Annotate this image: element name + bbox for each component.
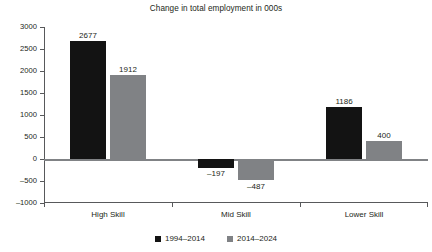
- y-axis-tick-label: 2000: [0, 67, 37, 75]
- y-axis-tick-label: 1000: [0, 111, 37, 119]
- y-axis-tick-label: 3000: [0, 23, 37, 31]
- y-axis-tick: [40, 49, 44, 50]
- y-axis-tick: [40, 181, 44, 182]
- chart-title: Change in total employment in 000s: [0, 4, 432, 13]
- y-axis-tick: [40, 27, 44, 28]
- y-axis-tick: [40, 115, 44, 116]
- legend-label: 2014–2024: [237, 234, 277, 243]
- chart-container: Change in total employment in 000s 30002…: [0, 0, 432, 252]
- bar: [198, 159, 234, 168]
- zero-baseline: [44, 159, 428, 161]
- y-axis-tick-label: 500: [0, 133, 37, 141]
- bar: [70, 41, 106, 159]
- x-axis-tick: [172, 202, 173, 207]
- x-axis-line: [44, 202, 428, 203]
- legend-item[interactable]: 2014–2024: [227, 234, 277, 243]
- category-label: Mid Skill: [172, 210, 300, 219]
- y-axis-tick-label: 0: [0, 155, 37, 163]
- bar-value-label: 400: [356, 131, 412, 140]
- y-axis-tick: [40, 93, 44, 94]
- chart-legend: 1994–20142014–2024: [0, 234, 432, 243]
- y-axis-line: [44, 27, 45, 203]
- y-axis-tick-label: –1000: [0, 199, 37, 207]
- y-axis-tick-label: 1500: [0, 89, 37, 97]
- legend-label: 1994–2014: [165, 234, 205, 243]
- bar: [238, 159, 274, 180]
- category-label: High Skill: [44, 210, 172, 219]
- legend-item[interactable]: 1994–2014: [155, 234, 205, 243]
- y-axis-tick: [40, 159, 44, 160]
- category-label: Lower Skill: [300, 210, 428, 219]
- y-axis-tick-label: 2500: [0, 45, 37, 53]
- bar-value-label: –487: [228, 182, 284, 191]
- bar-value-label: 1912: [100, 65, 156, 74]
- y-axis-tick: [40, 71, 44, 72]
- x-axis-tick: [300, 202, 301, 207]
- y-axis-tick-label: –500: [0, 177, 37, 185]
- y-axis-tick: [40, 137, 44, 138]
- x-axis-tick: [44, 202, 45, 207]
- legend-swatch-icon: [155, 236, 161, 242]
- x-axis-tick: [427, 202, 428, 207]
- legend-swatch-icon: [227, 236, 233, 242]
- bar-value-label: –197: [188, 169, 244, 178]
- bar-value-label: 1186: [316, 97, 372, 106]
- bar-value-label: 2677: [60, 31, 116, 40]
- bar: [110, 75, 146, 159]
- bar: [366, 141, 402, 159]
